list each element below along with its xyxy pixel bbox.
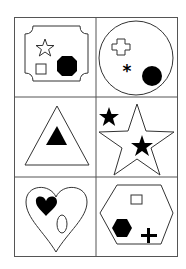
- shape-grid: *: [0, 0, 186, 269]
- outline-square-icon: [131, 195, 142, 204]
- grid-lines: [14, 17, 178, 257]
- cell-triangle: [25, 106, 89, 165]
- cell-hexagon: [100, 185, 173, 244]
- hexagon-container: [100, 185, 173, 244]
- filled-star-icon-center: [131, 135, 153, 156]
- outline-star-icon: [36, 39, 54, 56]
- filled-circle-icon: [142, 66, 162, 86]
- cell-notched-square: [25, 26, 88, 81]
- notched-square-container: [25, 26, 88, 81]
- heart-container: [26, 187, 87, 252]
- filled-star-icon-small: [99, 107, 119, 126]
- filled-plus-icon: [141, 228, 157, 243]
- filled-asterisk-icon: *: [123, 61, 132, 81]
- outline-cross-icon: [112, 39, 130, 55]
- outline-square-icon: [36, 64, 46, 74]
- cell-heart: [26, 187, 87, 252]
- circle-container: [99, 21, 173, 95]
- filled-octagon-icon: [57, 56, 77, 76]
- filled-heart-icon: [36, 197, 57, 216]
- filled-triangle-icon: [46, 126, 67, 145]
- cell-circle: *: [99, 21, 173, 95]
- filled-hexagon-icon: [112, 219, 132, 237]
- outline-ellipse-icon: [57, 215, 67, 233]
- cell-star: [99, 104, 174, 175]
